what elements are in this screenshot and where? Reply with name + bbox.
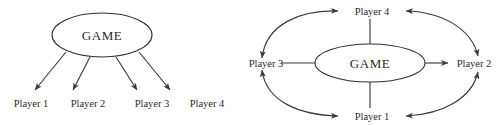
right-diagram: GAME Player 4 Player 2 Player 1 Player 3 xyxy=(249,6,492,122)
edge-player-4-player-2-arc xyxy=(406,11,478,56)
edge-player-1-player-2-arc xyxy=(406,72,478,116)
left-edges xyxy=(35,52,170,90)
left-player-3-label: Player 3 xyxy=(135,98,170,109)
left-player-1-label: Player 1 xyxy=(14,98,49,109)
game-player-diagrams: GAME Player 1 Player 2 Player 3 Player 4 xyxy=(0,0,498,125)
edge-game-to-player-3 xyxy=(116,57,137,90)
right-player-2-label: Player 2 xyxy=(457,58,492,69)
left-game-label: GAME xyxy=(82,28,123,43)
left-player-2-label: Player 2 xyxy=(71,98,106,109)
figure-root: GAME Player 1 Player 2 Player 3 Player 4 xyxy=(0,0,498,125)
edge-game-to-player-2 xyxy=(73,57,90,90)
edge-player-3-player-1-arc xyxy=(262,70,338,116)
left-player-4-label: Player 4 xyxy=(190,98,225,109)
left-diagram: GAME Player 1 Player 2 Player 3 Player 4 xyxy=(14,13,225,109)
right-game-label: GAME xyxy=(350,56,391,71)
right-player-1-label: Player 1 xyxy=(355,111,390,122)
edge-game-to-player-1 xyxy=(35,52,66,90)
right-player-3-label: Player 3 xyxy=(249,58,284,69)
right-player-4-label: Player 4 xyxy=(355,6,390,17)
edge-game-to-player-4 xyxy=(139,52,170,90)
